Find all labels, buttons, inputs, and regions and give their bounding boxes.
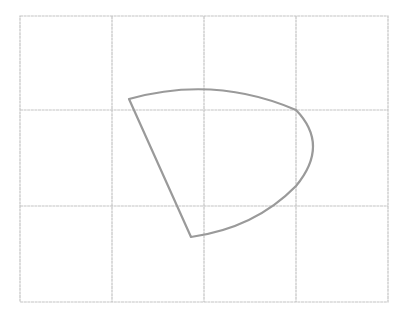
sector-shape	[129, 89, 313, 237]
grid	[20, 16, 388, 302]
diagram-canvas	[0, 0, 408, 316]
